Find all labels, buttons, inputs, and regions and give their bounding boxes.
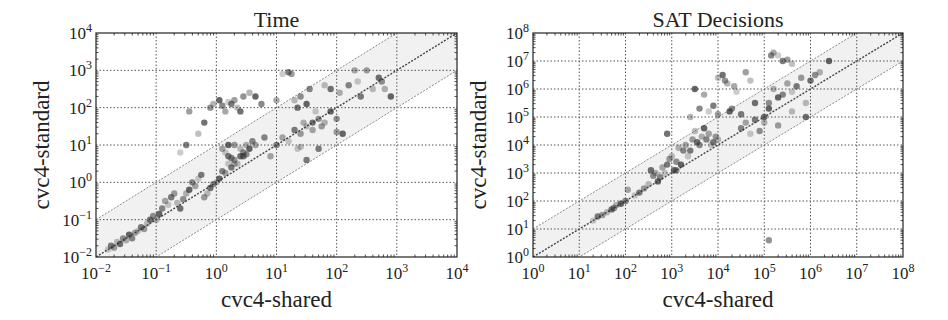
data-point <box>706 108 712 114</box>
data-point <box>303 101 309 107</box>
data-point <box>183 142 189 148</box>
x-tick-label: 102 <box>325 261 348 283</box>
data-point <box>153 216 159 222</box>
data-point <box>174 200 180 206</box>
data-point <box>222 108 228 114</box>
data-point <box>789 108 795 114</box>
figure: 10−210−110010110210310410−210−1100101102… <box>0 0 948 320</box>
data-point <box>701 125 707 131</box>
data-point <box>793 83 799 89</box>
data-point <box>129 235 135 241</box>
time-scatter-plot: 10−210−110010110210310410−210−1100101102… <box>29 0 469 312</box>
data-point <box>240 93 246 99</box>
data-point <box>715 136 721 142</box>
data-point <box>297 93 303 99</box>
x-tick-label: 103 <box>660 261 683 283</box>
data-point <box>156 211 162 217</box>
y-axis-label: cvc4-standard <box>29 80 54 209</box>
data-point <box>682 142 688 148</box>
data-point <box>766 237 772 243</box>
data-point <box>186 187 192 193</box>
data-point <box>327 86 333 92</box>
data-point <box>743 119 749 125</box>
x-tick-label: 100 <box>205 261 228 283</box>
sat-decisions-scatter-plot: 1001011021031041051061071081001011021031… <box>466 5 915 312</box>
data-point <box>288 71 294 77</box>
data-point <box>303 123 309 129</box>
data-point <box>355 78 361 84</box>
data-point <box>687 114 693 120</box>
data-point <box>210 101 216 107</box>
data-point <box>267 153 273 159</box>
x-tick-label: 102 <box>614 261 637 283</box>
y-tick-label: 104 <box>69 21 92 43</box>
y-tick-label: 101 <box>506 217 529 239</box>
x-tick-label: 103 <box>385 261 408 283</box>
data-point <box>303 157 309 163</box>
data-point <box>291 97 297 103</box>
data-point <box>817 69 823 75</box>
data-point <box>231 97 237 103</box>
data-point <box>237 108 243 114</box>
data-point <box>775 52 781 58</box>
data-point <box>333 129 339 135</box>
data-point <box>379 78 385 84</box>
y-axis-label: cvc4-standard <box>466 80 491 209</box>
data-point <box>733 89 739 95</box>
y-tick-label: 101 <box>69 133 92 155</box>
data-point <box>306 86 312 92</box>
data-point <box>252 142 258 148</box>
data-point <box>701 91 707 97</box>
x-tick-label: 10−2 <box>81 261 111 283</box>
data-point <box>285 138 291 144</box>
data-point <box>664 131 670 137</box>
data-point <box>803 114 809 120</box>
scatter-plots: 10−210−110010110210310410−210−1100101102… <box>0 0 948 320</box>
y-tick-label: 100 <box>69 170 92 192</box>
y-tick-label: 108 <box>506 21 529 43</box>
data-point <box>315 116 321 122</box>
data-point <box>756 128 762 134</box>
data-point <box>803 100 809 106</box>
data-point <box>625 187 631 193</box>
x-tick-label: 10−1 <box>141 261 171 283</box>
data-point <box>789 61 795 67</box>
data-point <box>738 111 744 117</box>
data-point <box>358 93 364 99</box>
data-point <box>680 147 686 153</box>
data-point <box>279 134 285 140</box>
data-point <box>165 202 171 208</box>
data-point <box>696 105 702 111</box>
data-point <box>622 198 628 204</box>
data-point <box>219 103 225 109</box>
data-point <box>770 86 776 92</box>
data-point <box>696 142 702 148</box>
data-point <box>664 161 670 167</box>
data-point <box>747 77 753 83</box>
data-point <box>731 83 737 89</box>
data-point <box>216 97 222 103</box>
chart-title: Time <box>254 7 300 32</box>
data-point <box>246 146 252 152</box>
y-tick-label: 10−1 <box>62 208 92 230</box>
data-point <box>297 144 303 150</box>
data-point <box>258 101 264 107</box>
data-point <box>159 205 165 211</box>
data-point <box>766 100 772 106</box>
data-point <box>798 75 804 81</box>
data-point <box>738 125 744 131</box>
chart-title: SAT Decisions <box>653 7 784 32</box>
data-point <box>198 172 204 178</box>
data-point <box>382 86 388 92</box>
data-point <box>645 181 651 187</box>
x-tick-label: 105 <box>753 261 776 283</box>
data-point <box>692 86 698 92</box>
y-tick-label: 102 <box>69 96 92 118</box>
data-point <box>370 86 376 92</box>
data-point <box>315 146 321 152</box>
data-point <box>761 119 767 125</box>
y-tick-label: 107 <box>506 49 529 71</box>
data-point <box>294 104 300 110</box>
data-point <box>246 90 252 96</box>
data-point <box>775 122 781 128</box>
